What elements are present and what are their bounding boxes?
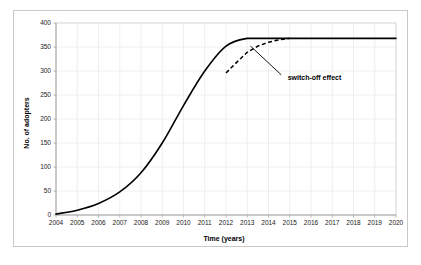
- y-tick-label: 50: [44, 187, 52, 194]
- gridlines-layer: [56, 23, 396, 215]
- y-tick-label: 300: [40, 67, 51, 74]
- y-tick-label: 100: [40, 163, 51, 170]
- x-tick-label: 2019: [368, 219, 383, 226]
- annotation-layer: switch-off effect: [250, 46, 342, 81]
- x-tick-label: 2017: [325, 219, 340, 226]
- x-tick-label: 2011: [198, 219, 212, 226]
- y-tick-labels: 050100150200250300350400: [40, 19, 51, 218]
- y-tick-label: 400: [40, 19, 51, 26]
- x-tick-label: 2010: [176, 219, 191, 226]
- x-tick-label: 2009: [155, 219, 170, 226]
- adoption-curve-chart: 050100150200250300350400 200420052006200…: [0, 0, 421, 265]
- x-tick-label: 2013: [240, 219, 255, 226]
- x-axis-title: Time (years): [203, 235, 244, 243]
- y-tick-label: 150: [40, 139, 51, 146]
- x-tick-label: 2006: [91, 219, 106, 226]
- y-tick-label: 0: [47, 211, 51, 218]
- x-tick-label: 2008: [134, 219, 149, 226]
- y-tick-label: 200: [40, 115, 51, 122]
- x-tick-label: 2005: [70, 219, 85, 226]
- x-tick-label: 2018: [346, 219, 361, 226]
- x-tick-label: 2015: [283, 219, 298, 226]
- annotation-label-switch-off-effect: switch-off effect: [288, 74, 342, 81]
- x-tick-labels: 2004200520062007200820092010201120122013…: [49, 219, 404, 226]
- y-axis-title: No. of adopters: [23, 97, 31, 148]
- y-tick-label: 350: [40, 43, 51, 50]
- x-tick-label: 2007: [113, 219, 128, 226]
- x-tick-label: 2012: [219, 219, 234, 226]
- x-tick-label: 2020: [389, 219, 404, 226]
- x-tick-label: 2014: [261, 219, 276, 226]
- series-line-switch-off-scenario: [226, 38, 290, 73]
- y-tick-label: 250: [40, 91, 51, 98]
- x-tick-label: 2016: [304, 219, 319, 226]
- annotation-leader-line: [250, 46, 281, 75]
- figure-canvas: 050100150200250300350400 200420052006200…: [0, 0, 421, 265]
- axis-ticks: [54, 23, 397, 218]
- x-tick-label: 2004: [49, 219, 64, 226]
